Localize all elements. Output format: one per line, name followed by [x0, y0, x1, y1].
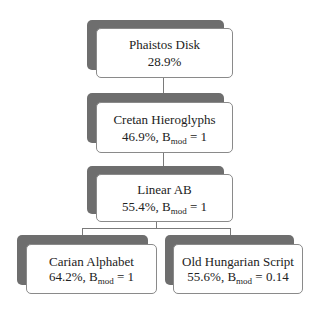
connector-cretan-linear-ab [163, 152, 164, 166]
node-stat: 46.9%, Bmod = 1 [122, 128, 207, 145]
node-old-hungarian-script: Old Hungarian Script 55.6%, Bmod = 0.14 [173, 244, 303, 294]
node-title: Cretan Hieroglyphs [113, 111, 215, 128]
node-stat: 64.2%, Bmod = 1 [49, 269, 134, 284]
connector-to-carian [82, 228, 83, 235]
node-title: Linear AB [137, 181, 192, 198]
connector-to-old-hungarian [230, 228, 231, 235]
node-phaistos-disk: Phaistos Disk 28.9% [96, 28, 233, 78]
connector-branch-horizontal [82, 228, 231, 229]
node-stat: 55.4%, Bmod = 1 [122, 198, 207, 215]
connector-linear-ab-stem [156, 221, 157, 228]
node-stat: 55.6%, Bmod = 0.14 [187, 269, 288, 284]
node-linear-ab: Linear AB 55.4%, Bmod = 1 [96, 174, 233, 222]
node-carian-alphabet: Carian Alphabet 64.2%, Bmod = 1 [26, 244, 157, 294]
node-title: Phaistos Disk [129, 36, 200, 53]
connector-phaistos-cretan [163, 77, 164, 93]
node-cretan-hieroglyphs: Cretan Hieroglyphs 46.9%, Bmod = 1 [96, 102, 233, 153]
node-title: Carian Alphabet [49, 254, 134, 269]
node-title: Old Hungarian Script [182, 254, 294, 269]
node-stat: 28.9% [148, 53, 182, 70]
